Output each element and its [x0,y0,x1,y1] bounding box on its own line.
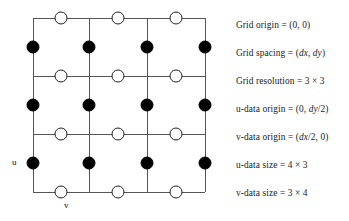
u-data-node [83,157,95,169]
u-data-node [141,41,153,53]
v-data-node [170,12,182,24]
u-data-node [199,99,211,111]
grid-diagram [0,0,235,221]
u-axis-label: u [12,157,17,167]
u-data-node [199,157,211,169]
v-data-node [170,70,182,82]
u-data-node [141,157,153,169]
legend-line-6: u-data size = 4 × 3 [236,160,308,170]
v-data-node [170,186,182,198]
u-data-node [27,99,39,111]
v-data-node [55,70,67,82]
v-data-node [55,12,67,24]
legend-line-5: v-data origin = (dx/2, 0) [236,132,328,142]
u-data-node [27,41,39,53]
u-data-node [83,41,95,53]
v-axis-label: v [64,200,69,210]
legend-line-3: Grid resolution = 3 × 3 [236,76,325,86]
legend-line-4: u-data origin = (0, dy/2) [236,104,328,114]
v-data-node [170,128,182,140]
legend-line-1: Grid origin = (0, 0) [236,20,310,30]
v-data-node [112,12,124,24]
staggered-grid-figure: u v Grid origin = (0, 0)Grid spacing = (… [0,0,349,221]
v-data-node [112,128,124,140]
u-data-node [141,99,153,111]
v-data-node [112,186,124,198]
legend-line-2: Grid spacing = (dx, dy) [236,48,325,58]
legend-line-7: v-data size = 3 × 4 [236,188,308,198]
u-data-node [199,41,211,53]
u-data-node [27,157,39,169]
v-data-node [55,186,67,198]
legend-text-block: Grid origin = (0, 0)Grid spacing = (dx, … [236,0,349,221]
v-data-node [55,128,67,140]
u-data-node [83,99,95,111]
v-data-node [112,70,124,82]
